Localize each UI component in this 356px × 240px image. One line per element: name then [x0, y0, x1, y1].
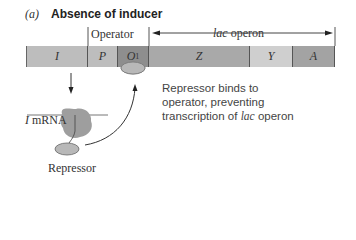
repressor-label: Repressor: [48, 161, 96, 176]
bound-repressor-shape: [121, 62, 145, 74]
desc-line-2: operator, preventing: [162, 95, 294, 109]
desc-line-1: Repressor binds to: [162, 81, 294, 95]
i-mrna-label: I mRNA: [25, 113, 67, 128]
desc-line-3: transcription of lac operon: [162, 109, 294, 123]
description-text: Repressor binds to operator, preventing …: [162, 81, 294, 123]
